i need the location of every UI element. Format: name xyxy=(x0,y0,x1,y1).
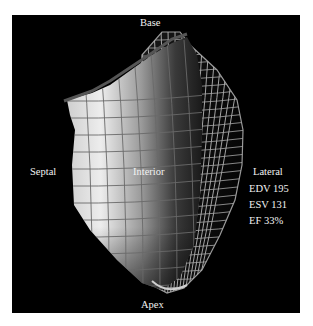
grid-latitude-line xyxy=(132,290,247,296)
solid-surface-shading xyxy=(67,37,202,290)
metric-ef: EF 33% xyxy=(249,215,283,227)
label-base: Base xyxy=(140,17,160,29)
ventricle-render xyxy=(12,15,300,313)
label-lateral: Lateral xyxy=(253,166,283,178)
metric-esv: ESV 131 xyxy=(249,199,287,211)
metric-edv: EDV 195 xyxy=(249,183,289,195)
label-interior: Interior xyxy=(133,166,165,178)
label-septal: Septal xyxy=(30,166,56,178)
grid-latitude-line xyxy=(132,34,247,40)
label-apex: Apex xyxy=(141,299,164,311)
ventricle-figure-panel: Base Apex Septal Interior Lateral EDV 19… xyxy=(12,15,300,313)
